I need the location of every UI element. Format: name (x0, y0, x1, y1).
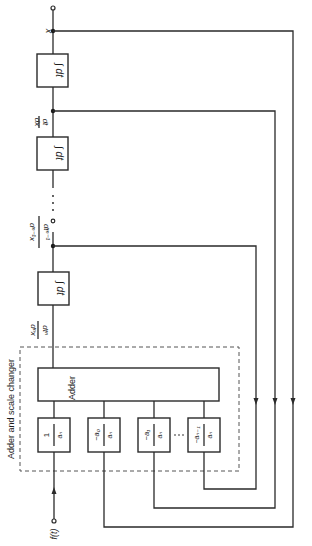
adder-label: Adder (67, 376, 77, 400)
svg-text:1: 1 (42, 432, 51, 437)
label-dxdt: dx dt (33, 116, 50, 128)
svg-text:dⁿx: dⁿx (29, 324, 38, 336)
scale-block-4: −aₙ₋₁ aₙ (188, 418, 220, 452)
integrator-2-label: ∫ dt (54, 145, 65, 161)
svg-text:aₙ: aₙ (206, 432, 213, 439)
input-path: f(t) (49, 452, 59, 540)
integrator-1-label: ∫ dt (54, 62, 65, 78)
svg-text:aₙ: aₙ (106, 432, 113, 439)
label-x: x (44, 28, 54, 34)
analog-computer-block-diagram: ∫ dt ∫ dt ∫ dt x dx dt dⁿ⁻¹x dtⁿ⁻¹ dⁿx d… (0, 0, 312, 546)
scale-ellipsis (174, 434, 184, 436)
svg-text:−a₀: −a₀ (92, 429, 101, 441)
svg-text:−a₁: −a₁ (142, 429, 151, 441)
break-terminal (51, 219, 55, 223)
svg-text:aₙ: aₙ (156, 432, 163, 439)
scale-block-1: 1 aₙ (38, 418, 70, 452)
integrator-3-label: ∫ dt (55, 280, 66, 296)
spine-ellipsis (52, 195, 54, 211)
svg-text:−aₙ₋₁: −aₙ₋₁ (193, 426, 200, 444)
svg-text:dⁿ⁻¹x: dⁿ⁻¹x (28, 223, 37, 242)
svg-text:aₙ: aₙ (56, 432, 63, 439)
scale-block-2: −a₀ aₙ (88, 418, 120, 452)
region-title: Adder and scale changer (6, 359, 16, 459)
integrator-2: ∫ dt (37, 137, 68, 170)
output-terminal (51, 6, 55, 10)
scale-to-adder-wires (54, 401, 204, 418)
svg-text:dtⁿ: dtⁿ (41, 325, 50, 335)
svg-text:dx: dx (33, 118, 42, 127)
integrator-3: ∫ dt (38, 272, 69, 305)
label-dnx: dⁿx dtⁿ (29, 321, 50, 339)
label-dn1x: dⁿ⁻¹x dtⁿ⁻¹ (28, 216, 51, 248)
svg-text:dt: dt (41, 119, 50, 126)
integrator-1: ∫ dt (37, 54, 68, 87)
svg-text:dtⁿ⁻¹: dtⁿ⁻¹ (42, 224, 51, 241)
adder-block: Adder (38, 368, 219, 401)
scale-block-3: −a₁ aₙ (138, 418, 170, 452)
input-label: f(t) (49, 529, 59, 540)
